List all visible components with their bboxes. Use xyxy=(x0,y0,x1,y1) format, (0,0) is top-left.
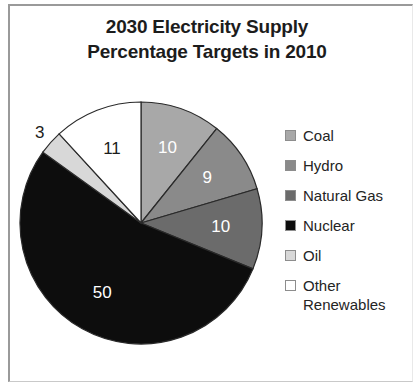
legend-item[interactable]: Natural Gas xyxy=(285,186,411,216)
legend-item-label: Hydro xyxy=(303,156,343,175)
pie-slice-value-label: 11 xyxy=(103,139,121,159)
chart-title-line-2: Percentage Targets in 2010 xyxy=(14,39,400,64)
chart-title: 2030 Electricity Supply Percentage Targe… xyxy=(14,14,400,64)
legend-item[interactable]: Nuclear xyxy=(285,216,411,246)
legend-item-label: Coal xyxy=(303,126,334,145)
pie-slice-value-label: 10 xyxy=(211,217,230,237)
legend-swatch-icon xyxy=(285,190,296,201)
pie-plot-area: 1091050311 xyxy=(19,101,263,345)
chart-title-line-1: 2030 Electricity Supply xyxy=(14,14,400,39)
legend-swatch-icon xyxy=(285,250,296,261)
legend-swatch-icon xyxy=(285,220,296,231)
pie-chart-figure: 2030 Electricity Supply Percentage Targe… xyxy=(0,0,415,386)
pie-slice-value-label: 50 xyxy=(93,283,112,303)
legend-swatch-icon xyxy=(285,130,296,141)
pie-slice-value-label: 9 xyxy=(203,168,212,188)
legend-item[interactable]: Other Renewables xyxy=(285,276,411,322)
legend-item[interactable]: Oil xyxy=(285,246,411,276)
legend-item-label: Nuclear xyxy=(303,216,355,235)
legend-item-label: Oil xyxy=(303,246,321,265)
legend-swatch-icon xyxy=(285,160,296,171)
chart-legend: CoalHydroNatural GasNuclearOilOther Rene… xyxy=(285,126,411,322)
legend-item[interactable]: Hydro xyxy=(285,156,411,186)
pie-slice-value-label: 3 xyxy=(35,123,44,143)
legend-item-label: Natural Gas xyxy=(303,186,383,205)
legend-item-label: Other Renewables xyxy=(303,276,386,314)
legend-item[interactable]: Coal xyxy=(285,126,411,156)
pie-slice-value-label: 10 xyxy=(158,138,177,158)
legend-swatch-icon xyxy=(285,280,296,291)
